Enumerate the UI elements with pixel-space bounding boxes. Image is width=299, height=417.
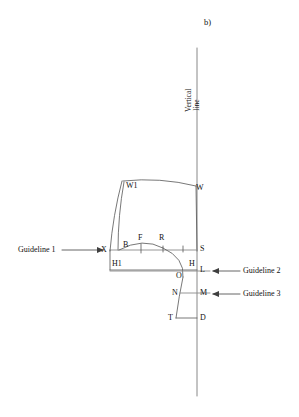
point-label-W1: W1 [126, 182, 138, 190]
point-label-S: S [200, 245, 204, 253]
diagram-canvas [0, 0, 299, 417]
point-label-O: O [176, 272, 182, 280]
left-edge-outer-curve [110, 181, 122, 251]
point-label-R: R [159, 234, 164, 242]
point-label-H: H [189, 260, 195, 268]
guideline-2-label: Guideline 2 [243, 267, 281, 275]
point-label-F: F [138, 234, 142, 242]
point-label-D: D [200, 314, 206, 322]
point-label-H1: H1 [112, 260, 122, 268]
guideline-1-label: Guideline 1 [18, 246, 56, 254]
vertical-line-label-line2: line [193, 98, 201, 112]
point-label-L: L [200, 266, 205, 274]
panel-label: b) [204, 18, 211, 27]
point-label-W: W [196, 184, 204, 192]
figure-container: b) Vertical line Guideline 1 Guideline 2… [0, 0, 299, 417]
point-label-X: X [101, 246, 107, 254]
guideline-3-label: Guideline 3 [243, 290, 281, 298]
point-label-N: N [172, 289, 178, 297]
point-label-T: T [168, 314, 173, 322]
point-label-B: B [123, 241, 128, 249]
vertical-line-label: Vertical line [185, 98, 201, 112]
lower-side-curve [176, 277, 183, 318]
point-label-M: M [200, 289, 207, 297]
